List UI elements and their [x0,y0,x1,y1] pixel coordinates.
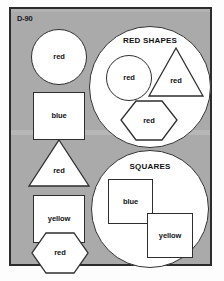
loose-hexagon-red[interactable]: red [30,231,90,275]
group-title-red-shapes: RED SHAPES [90,36,210,45]
scan-artifact-top [11,9,210,12]
worksheet-sheet: D-90 red blue red yellow red [0,0,224,281]
grouped-circle-red[interactable]: red [106,55,152,101]
shape-label: red [119,117,179,125]
worksheet-panel: D-90 red blue red yellow red [9,7,212,266]
shape-label: yellow [159,232,181,240]
loose-circle-red[interactable]: red [31,29,87,85]
shape-label: blue [51,112,66,120]
shape-label: red [147,77,205,85]
grouped-square-yellow[interactable]: yellow [147,213,193,258]
loose-triangle-red[interactable]: red [27,138,91,188]
shape-label: blue [123,198,138,206]
group-title-squares: SQUARES [92,162,208,171]
group-circle-squares[interactable]: SQUARES blue yellow [91,150,209,268]
shape-label: red [53,53,64,61]
loose-square-blue[interactable]: blue [33,92,85,140]
triangle-outline [147,46,205,98]
shape-label: red [30,249,90,257]
shape-label: red [27,167,91,175]
shape-label: red [123,74,134,82]
grouped-triangle-red[interactable]: red [147,46,205,98]
triangle-outline [27,138,91,188]
grouped-hexagon-red[interactable]: red [119,99,179,142]
shape-label: yellow [48,215,70,223]
item-code-label: D-90 [17,14,32,23]
group-circle-red-shapes[interactable]: RED SHAPES red red red [89,26,211,148]
